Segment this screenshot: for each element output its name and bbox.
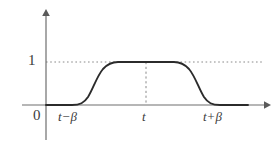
plot-canvas [0,0,277,162]
x-axis-arrow-icon [264,101,271,109]
y-axis-arrow-icon [42,9,50,16]
y-axis-tick-label-one: 1 [28,53,36,68]
origin-label-zero: 0 [33,108,41,123]
plateau-curve [46,62,248,105]
x-axis-tick-label-t: t [142,110,146,123]
x-axis-tick-label-t-minus-beta: t−β [58,110,77,123]
x-axis-tick-label-t-plus-beta: t+β [203,110,222,123]
plateau-function-figure: 1 0 t−β t t+β [0,0,277,162]
